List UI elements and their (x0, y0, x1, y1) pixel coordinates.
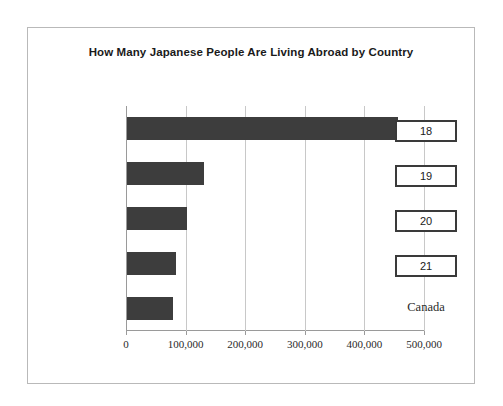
y-axis-category-label: 18 (378, 120, 474, 142)
x-tick-label: 400,000 (347, 338, 383, 350)
y-axis-category-label: 21 (378, 255, 474, 277)
x-tick-mark (424, 331, 425, 335)
y-axis-category-label: 19 (378, 165, 474, 187)
x-tick-label: 300,000 (287, 338, 323, 350)
answer-box[interactable]: 19 (395, 165, 457, 187)
chart-title: How Many Japanese People Are Living Abro… (28, 46, 474, 58)
x-tick-mark (245, 331, 246, 335)
answer-box[interactable]: 18 (395, 120, 457, 142)
answer-box[interactable]: 20 (395, 210, 457, 232)
x-tick-label: 0 (123, 338, 129, 350)
y-axis-category-label: 20 (378, 210, 474, 232)
x-tick-label: 500,000 (406, 338, 442, 350)
bar (127, 252, 176, 275)
bar (127, 162, 204, 185)
x-tick-mark (305, 331, 306, 335)
country-label: Canada (407, 300, 444, 315)
answer-box[interactable]: 21 (395, 255, 457, 277)
y-axis-category-label: Canada (378, 300, 474, 315)
x-tick-mark (364, 331, 365, 335)
x-axis-tick-labels: 0100,000200,000300,000400,000500,000 (126, 331, 424, 357)
chart-frame: How Many Japanese People Are Living Abro… (27, 27, 475, 384)
x-tick-mark (126, 331, 127, 335)
bar (127, 117, 398, 140)
x-tick-label: 100,000 (168, 338, 204, 350)
x-tick-label: 200,000 (227, 338, 263, 350)
bar (127, 297, 173, 320)
bar (127, 207, 187, 230)
x-tick-mark (186, 331, 187, 335)
